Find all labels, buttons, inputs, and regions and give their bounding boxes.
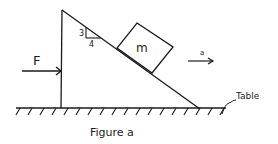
- acceleration-label: a: [200, 49, 204, 57]
- wedge-vertical-side: [61, 10, 62, 108]
- wedge: [61, 10, 200, 109]
- slope-run-label: 4: [89, 40, 94, 49]
- physics-diagram: 3 4 m F a Table Fig: [0, 0, 278, 144]
- wedge-incline: [62, 10, 200, 109]
- slope-rise-label: 3: [79, 29, 84, 38]
- mass-label: m: [136, 41, 148, 55]
- force-label: F: [33, 53, 40, 68]
- acceleration-arrow: [188, 58, 213, 64]
- figure-caption: Figure a: [90, 126, 134, 139]
- ground-hatching: [16, 108, 224, 115]
- force-arrow: [22, 67, 61, 75]
- table-leader-line: [222, 100, 236, 114]
- table-label: Table: [235, 91, 260, 101]
